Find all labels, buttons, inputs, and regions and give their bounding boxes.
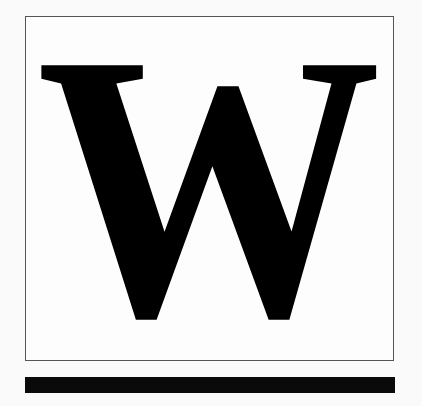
logo-letter: W	[37, 16, 382, 361]
letter-w-logo: W	[25, 16, 394, 361]
underline-bar	[25, 377, 395, 393]
